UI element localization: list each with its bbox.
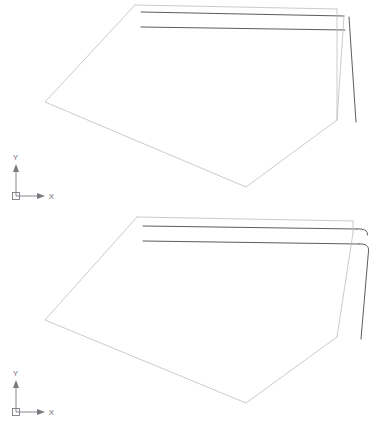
upper-panel-flange-inner-edge [337,16,344,120]
lower-panel-hook-upper [357,229,368,235]
ucs-icon-lower: Y X [13,369,55,417]
upper-panel-flange-outer-edge [349,17,356,122]
ucs-y-label-upper: Y [13,153,18,162]
ucs-x-arrow-upper [37,193,45,199]
lower-panel-hook-lower [359,244,369,339]
ucs-y-label-lower: Y [13,369,18,378]
lower-panel-top-edge [137,217,353,221]
ucs-y-arrow-lower [13,380,19,388]
lower-panel-fold-line-1 [143,226,357,229]
lower-panel-fold-line-2 [143,241,359,244]
upper-panel-top-edge [135,5,337,9]
upper-panel-body-outline [45,5,337,187]
ucs-x-arrow-lower [37,409,45,415]
ucs-icon-upper: Y X [13,153,55,201]
lower-panel-flange-inner-edge [337,233,353,337]
lower-view: Y X [13,217,369,417]
upper-panel-fold-line-1 [141,12,344,16]
cad-drawing-canvas: Y X Y X [0,0,377,431]
ucs-y-arrow-upper [13,164,19,172]
lower-panel-body-outline [45,217,337,403]
upper-panel-fold-line-2 [141,27,345,30]
upper-view: Y X [13,5,357,201]
ucs-x-label-lower: X [49,408,54,417]
ucs-x-label-upper: X [49,192,54,201]
